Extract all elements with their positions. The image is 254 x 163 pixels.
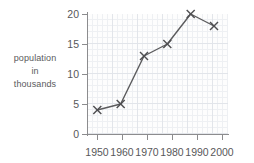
y-axis-label-line-1: population	[2, 52, 68, 65]
x-tick-label-2000: 2000	[210, 146, 233, 158]
y-tick-5	[82, 104, 87, 105]
plot-area	[88, 14, 228, 134]
series-polyline	[97, 14, 214, 110]
data-point-1970	[140, 52, 148, 60]
y-tick-15	[82, 44, 87, 45]
x-tick-1950	[97, 135, 98, 140]
data-point-2000	[210, 22, 218, 30]
y-tick-20	[82, 14, 87, 15]
y-tick-label-10: 10	[58, 68, 79, 80]
data-point-markers	[93, 10, 218, 114]
y-tick-10	[82, 74, 87, 75]
x-tick-1960	[122, 135, 123, 140]
x-tick-2000	[222, 135, 223, 140]
data-point-1990	[187, 10, 195, 18]
x-tick-1990	[197, 135, 198, 140]
line-chart-figure: population in thousands 20 15 10 5 0	[0, 0, 254, 163]
y-tick-label-15: 15	[58, 38, 79, 50]
y-tick-label-0: 0	[58, 128, 79, 140]
y-tick-0	[82, 134, 87, 135]
y-tick-label-5: 5	[58, 98, 79, 110]
data-point-1980	[163, 40, 171, 48]
y-tick-label-20: 20	[58, 8, 79, 20]
x-tick-1980	[172, 135, 173, 140]
data-series-line	[88, 14, 228, 134]
x-axis-line	[87, 134, 229, 135]
x-tick-1970	[147, 135, 148, 140]
